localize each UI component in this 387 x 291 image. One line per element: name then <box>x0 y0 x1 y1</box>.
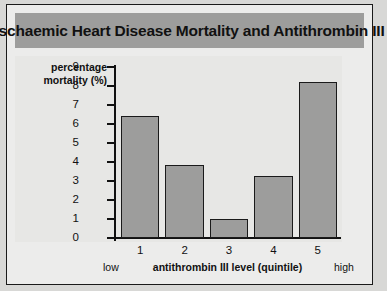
y-axis-line <box>114 65 116 241</box>
x-axis-tick-label: 4 <box>251 245 295 257</box>
y-axis-tick <box>107 199 114 201</box>
bar <box>165 165 203 238</box>
y-axis-tick <box>107 161 114 163</box>
y-axis-tick-label: 3 <box>59 175 79 187</box>
x-axis-tick-label: 3 <box>207 245 251 257</box>
chart-title: Ischaemic Heart Disease Mortality and An… <box>0 22 385 40</box>
chart-title-band: Ischaemic Heart Disease Mortality and An… <box>15 13 364 48</box>
y-axis-tick-label: 6 <box>59 118 79 130</box>
y-axis-tick-label: 1 <box>59 213 79 225</box>
y-axis-tick <box>107 180 114 182</box>
bar <box>210 219 248 238</box>
bar <box>121 116 159 238</box>
y-axis-tick <box>107 237 114 239</box>
y-axis-tick-label: 8 <box>59 80 79 92</box>
y-axis-tick <box>107 218 114 220</box>
y-axis-tick-label: 0 <box>59 232 79 244</box>
bar <box>299 82 337 238</box>
y-axis-tick <box>107 66 114 68</box>
x-axis-tick-label: 2 <box>162 245 206 257</box>
y-axis-tick-label: 9 <box>59 61 79 73</box>
y-axis-tick-label: 7 <box>59 99 79 111</box>
y-axis-tick <box>107 85 114 87</box>
y-axis-tick <box>107 104 114 106</box>
y-axis-tick-label: 2 <box>59 194 79 206</box>
x-axis-high-annotation: high <box>334 261 354 273</box>
x-axis-tick-label: 1 <box>118 245 162 257</box>
y-axis-tick <box>107 142 114 144</box>
bar <box>254 176 292 238</box>
figure-panel: Ischaemic Heart Disease Mortality and An… <box>6 4 373 285</box>
x-axis-title: antithrombin III level (quintile) <box>114 261 341 273</box>
y-axis-tick <box>107 123 114 125</box>
y-axis-tick-label: 5 <box>59 137 79 149</box>
x-axis-tick-label: 5 <box>296 245 340 257</box>
y-axis-tick-label: 4 <box>59 156 79 168</box>
